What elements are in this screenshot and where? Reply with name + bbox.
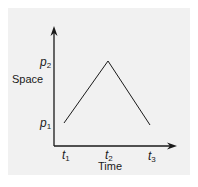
x-axis-label: Time <box>98 161 122 172</box>
space-time-diagram <box>0 0 198 187</box>
y-tick-p1: p1 <box>40 117 51 131</box>
x-tick-t3: t3 <box>148 150 156 164</box>
y-tick-p2: p2 <box>40 56 51 70</box>
y-axis-label: Space <box>12 74 43 85</box>
x-tick-t1: t1 <box>62 149 70 163</box>
position-line <box>64 61 150 125</box>
